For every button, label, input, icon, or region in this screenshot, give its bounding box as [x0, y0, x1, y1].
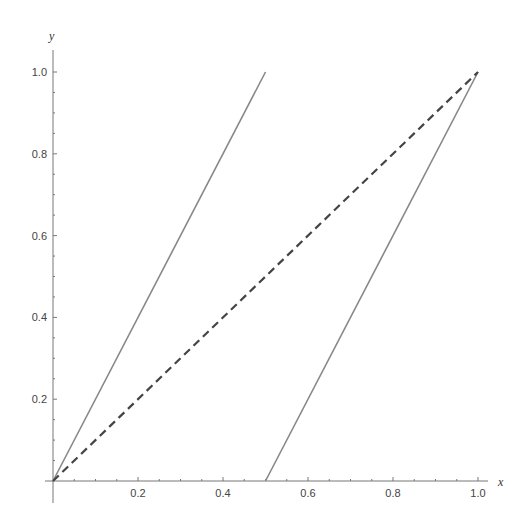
- series-line-right: [266, 72, 479, 481]
- x-tick-label: 0.6: [300, 487, 315, 499]
- series-diagonal: [53, 72, 478, 481]
- x-axis-label: x: [497, 475, 504, 489]
- y-tick-label: 0.8: [32, 148, 47, 160]
- series: [53, 72, 478, 481]
- y-tick-label: 0.4: [32, 311, 47, 323]
- x-tick-label: 0.4: [215, 487, 230, 499]
- y-tick-label: 0.6: [32, 230, 47, 242]
- y-axis-label: y: [48, 29, 55, 43]
- series-line-left: [53, 72, 266, 481]
- y-tick-label: 1.0: [32, 66, 47, 78]
- chart: 0.20.40.60.81.00.20.40.60.81.0xy: [0, 0, 528, 525]
- y-tick-label: 0.2: [32, 393, 47, 405]
- x-tick-label: 0.2: [130, 487, 145, 499]
- x-tick-label: 1.0: [470, 487, 485, 499]
- x-tick-label: 0.8: [385, 487, 400, 499]
